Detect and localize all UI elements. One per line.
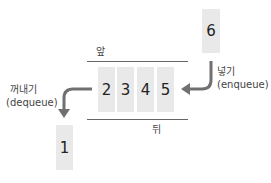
- enqueue-label-en: (enqueue): [217, 79, 269, 91]
- enqueue-label-ko: 넣기: [217, 66, 235, 78]
- arrows: [0, 0, 271, 183]
- dequeue-label-en: (dequeue): [6, 97, 58, 109]
- dequeue-arrow-icon: [58, 89, 92, 118]
- dequeue-label-ko: 꺼내기: [10, 84, 37, 96]
- enqueue-arrow-icon: [181, 61, 211, 95]
